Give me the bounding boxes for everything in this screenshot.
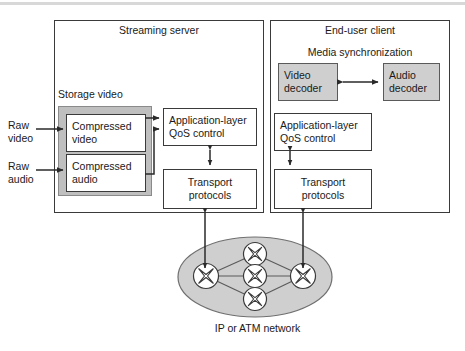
audio-decoder-box[interactable]: Audio decoder <box>383 63 440 101</box>
media-synchronization-label: Media synchronization <box>270 46 450 58</box>
raw-video-line2: video <box>8 132 33 145</box>
panel-end-user-client-title: End-user client <box>270 24 450 36</box>
client-transport-line1: Transport <box>301 176 346 189</box>
compressed-video-line1: Compressed <box>72 120 132 133</box>
server-qos-line2: QoS control <box>169 127 224 140</box>
network-label: IP or ATM network <box>180 322 335 334</box>
raw-audio-line2: audio <box>8 173 34 186</box>
server-transport-line1: Transport <box>188 176 233 189</box>
client-qos-line2: QoS control <box>280 132 335 145</box>
client-transport-protocols-box[interactable]: Transport protocols <box>274 169 372 209</box>
video-decoder-line2: decoder <box>284 82 322 95</box>
storage-video-container: Compressed video Compressed audio <box>58 106 152 196</box>
client-transport-line2: protocols <box>302 189 345 202</box>
server-qos-line1: Application-layer <box>169 114 247 127</box>
raw-audio-line1: Raw <box>8 160 34 173</box>
panel-streaming-server-title: Streaming server <box>54 24 264 36</box>
router-icon <box>291 264 316 289</box>
router-icon <box>194 264 219 289</box>
raw-audio-label: Raw audio <box>8 160 34 186</box>
raw-video-label: Raw video <box>8 119 33 145</box>
client-qos-control-box[interactable]: Application-layer QoS control <box>274 113 372 151</box>
compressed-audio-box[interactable]: Compressed audio <box>66 154 146 192</box>
compressed-video-line2: video <box>72 133 97 146</box>
router-icon <box>244 265 267 288</box>
storage-video-label: Storage video <box>58 88 158 100</box>
server-transport-line2: protocols <box>189 189 232 202</box>
network-cloud <box>178 237 332 317</box>
video-decoder-line1: Video <box>284 69 311 82</box>
audio-decoder-line2: decoder <box>389 82 427 95</box>
server-transport-protocols-box[interactable]: Transport protocols <box>163 169 257 209</box>
server-qos-control-box[interactable]: Application-layer QoS control <box>163 108 257 146</box>
client-qos-line1: Application-layer <box>280 119 358 132</box>
top-rule-divider <box>0 2 465 5</box>
router-icon <box>244 243 267 266</box>
compressed-audio-line2: audio <box>72 173 98 186</box>
diagram-canvas: Streaming server Storage video Compresse… <box>0 0 465 351</box>
raw-video-line1: Raw <box>8 119 33 132</box>
router-icon <box>244 288 267 311</box>
compressed-video-box[interactable]: Compressed video <box>66 114 146 152</box>
network-nodes <box>194 243 316 311</box>
audio-decoder-line1: Audio <box>389 69 416 82</box>
compressed-audio-line1: Compressed <box>72 160 132 173</box>
network-links <box>206 254 303 299</box>
video-decoder-box[interactable]: Video decoder <box>278 63 338 101</box>
